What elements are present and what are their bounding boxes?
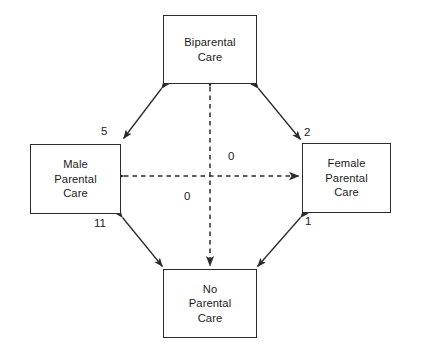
node-male-parental-care-line-1: Male <box>63 157 88 172</box>
node-no-parental-care-line-1: No <box>203 282 218 297</box>
node-female-parental-care-line-2: Parental <box>325 171 367 186</box>
edge-biparental-male <box>124 89 162 139</box>
node-no-parental-care[interactable]: No Parental Care <box>163 269 257 338</box>
node-no-parental-care-line-2: Parental <box>189 296 231 311</box>
node-no-parental-care-line-3: Care <box>198 311 223 326</box>
edge-label-biparental-female: 2 <box>304 126 310 138</box>
edge-label-biparental-male: 5 <box>101 125 107 137</box>
node-female-parental-care[interactable]: Female Parental Care <box>302 143 391 213</box>
node-biparental-care-line-2: Care <box>198 50 223 65</box>
edge-female-none <box>258 218 301 267</box>
node-female-parental-care-line-3: Care <box>334 185 359 200</box>
node-male-parental-care[interactable]: Male Parental Care <box>30 144 121 214</box>
edge-label-horizontal-dashed: 0 <box>184 190 190 202</box>
figure-caption-partial <box>0 341 434 351</box>
edge-male-none <box>123 218 163 267</box>
node-biparental-care[interactable]: Biparental Care <box>163 15 257 84</box>
node-male-parental-care-line-3: Care <box>63 186 88 201</box>
node-female-parental-care-line-1: Female <box>328 156 366 171</box>
node-biparental-care-line-1: Biparental <box>184 35 235 50</box>
diagram-canvas: Biparental Care Male Parental Care Femal… <box>0 0 434 351</box>
edge-biparental-female <box>259 89 301 140</box>
edge-label-female-none: 1 <box>305 215 311 227</box>
node-male-parental-care-line-2: Parental <box>54 172 96 187</box>
edge-label-vertical-dashed: 0 <box>228 150 234 162</box>
edge-label-male-none: 11 <box>94 217 106 229</box>
